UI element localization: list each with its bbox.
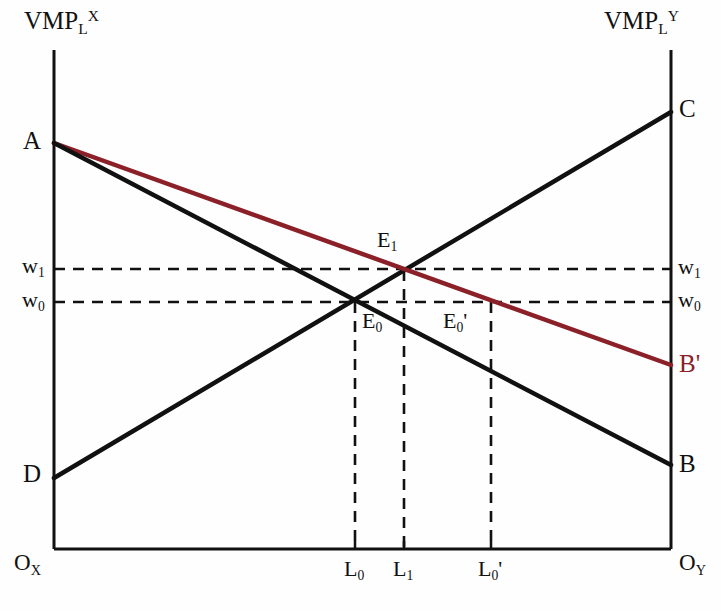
equilibrium-label-e0-prime: E0' <box>443 310 467 335</box>
wage-label-right-w0: w0 <box>678 289 701 314</box>
quantity-label-l0: L0 <box>344 558 364 583</box>
diagram-canvas <box>0 0 721 611</box>
curve-label-b: B <box>679 451 696 476</box>
left-axis-title: VMPLX <box>24 8 99 37</box>
prime-mark-e0: ' <box>463 308 467 333</box>
wage-label-left-w0: w0 <box>22 289 45 314</box>
curve-label-c: C <box>679 96 696 121</box>
prime-mark-l0: ' <box>498 556 502 581</box>
origin-label-y: OY <box>679 551 706 577</box>
right-axis-title: VMPLY <box>604 8 679 37</box>
equilibrium-label-e0: E0 <box>362 310 382 335</box>
curve-label-d: D <box>23 461 41 486</box>
curve-ab <box>54 143 671 465</box>
quantity-label-l1: L1 <box>393 558 413 583</box>
wage-label-right-w1: w1 <box>678 256 701 281</box>
curve-label-b-prime: B' <box>679 351 700 376</box>
curve-dc <box>54 112 671 478</box>
labor-allocation-diagram: VMPLX VMPLY OX OY A C D B B' w1 w0 w1 w0… <box>0 0 721 611</box>
quantity-label-l0-prime: L0' <box>478 558 502 583</box>
curve-label-a: A <box>23 128 41 153</box>
equilibrium-label-e1: E1 <box>377 229 397 254</box>
wage-label-left-w1: w1 <box>22 255 45 280</box>
origin-label-x: OX <box>14 551 41 577</box>
